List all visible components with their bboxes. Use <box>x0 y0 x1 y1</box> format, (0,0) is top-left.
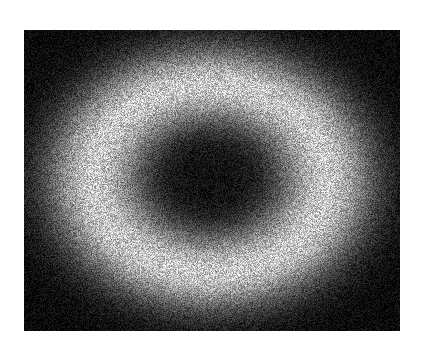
figure-root <box>0 0 423 359</box>
density-heatmap-canvas <box>24 30 400 331</box>
density-plot-area <box>24 30 400 331</box>
